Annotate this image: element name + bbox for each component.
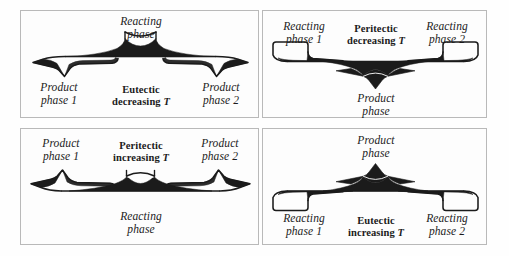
label-line-1: Product <box>185 81 257 94</box>
label-text: decreasing <box>112 96 163 107</box>
top-right-reacting-phase-2-label: Reacting phase 2 <box>408 20 486 45</box>
panel-bottom-left: Product phase 1 Peritectic increasing T … <box>20 128 259 245</box>
label-line-2: phase <box>335 105 417 118</box>
label-line-1: Eutectic <box>97 84 185 96</box>
label-line-1: Product <box>335 134 417 147</box>
bottom-left-product-phase-1-label: Product phase 1 <box>24 137 98 162</box>
label-line-2: phase <box>100 223 182 236</box>
bottom-left-reaction-label: Peritectic increasing T <box>94 140 188 164</box>
label-line-2: decreasing T <box>97 96 185 108</box>
bottom-left-product-phase-2-label: Product phase 2 <box>183 137 257 162</box>
label-line-1: Reacting <box>100 210 182 223</box>
label-line-2: phase 2 <box>408 33 486 46</box>
label-line-1: Product <box>23 81 95 94</box>
panel-bottom-right: Product phase Reacting phase 1 Eutectic … <box>262 128 487 245</box>
label-line-1: Product <box>183 137 257 150</box>
label-text: decreasing <box>347 35 398 46</box>
label-line-1: Reacting <box>408 20 486 33</box>
label-line-2: phase 1 <box>24 150 98 163</box>
invariant-reaction-figure: Reacting phase Eutectic decreasing T Pro… <box>0 0 509 256</box>
label-text: increasing <box>113 152 163 163</box>
top-left-product-phase-1-label: Product phase 1 <box>23 81 95 106</box>
panel-top-right: Reacting phase 1 Peritectic decreasing T… <box>262 10 487 118</box>
label-line-1: Product <box>335 92 417 105</box>
top-left-reacting-phase-label: Reacting phase <box>100 15 182 40</box>
label-line-2: phase 2 <box>408 225 486 238</box>
bottom-right-product-phase-label: Product phase <box>335 134 417 159</box>
bottom-left-reacting-phase-label: Reacting phase <box>100 210 182 235</box>
temperature-symbol: T <box>163 96 170 107</box>
label-line-1: Reacting <box>408 212 486 225</box>
temperature-symbol: T <box>163 152 170 163</box>
label-line-1: Peritectic <box>94 140 188 152</box>
panel-top-left: Reacting phase Eutectic decreasing T Pro… <box>20 10 259 118</box>
label-line-2: phase 1 <box>23 94 95 107</box>
label-line-2: phase <box>100 28 182 41</box>
label-line-1: Product <box>24 137 98 150</box>
bottom-right-reacting-phase-2-label: Reacting phase 2 <box>408 212 486 237</box>
temperature-symbol: T <box>398 227 405 238</box>
label-line-2: phase 2 <box>185 94 257 107</box>
label-text: increasing <box>348 227 398 238</box>
top-left-reaction-label: Eutectic decreasing T <box>97 84 185 108</box>
temperature-symbol: T <box>398 35 405 46</box>
top-left-product-phase-2-label: Product phase 2 <box>185 81 257 106</box>
label-line-2: phase <box>335 147 417 160</box>
top-right-product-phase-label: Product phase <box>335 92 417 117</box>
label-line-1: Reacting <box>100 15 182 28</box>
label-line-2: phase 2 <box>183 150 257 163</box>
label-line-2: increasing T <box>94 152 188 164</box>
